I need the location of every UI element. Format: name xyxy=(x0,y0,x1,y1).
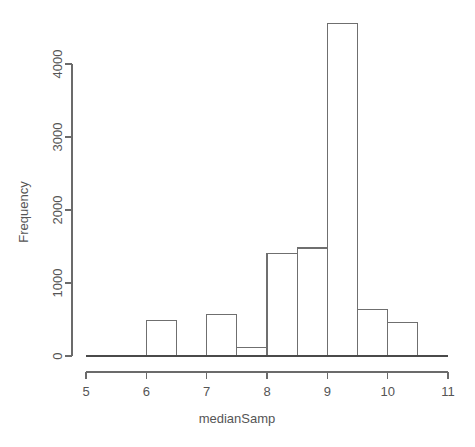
y-axis-title: Frequency xyxy=(16,181,31,243)
y-tick-label: 0 xyxy=(50,352,65,359)
x-tick-label: 6 xyxy=(143,384,150,399)
plot-canvas: 01000200030004000 567891011 medianSamp F… xyxy=(0,0,475,447)
histogram-bar xyxy=(267,254,297,356)
histogram-bar xyxy=(237,347,267,356)
y-axis-ticks: 01000200030004000 xyxy=(50,50,73,360)
histogram-bar xyxy=(297,248,327,356)
y-tick-label: 2000 xyxy=(50,196,65,225)
x-tick-label: 11 xyxy=(441,384,455,399)
histogram-bar xyxy=(207,314,237,356)
y-tick-label: 1000 xyxy=(50,269,65,298)
histogram-bar xyxy=(388,322,418,356)
y-tick-label: 3000 xyxy=(50,123,65,152)
x-tick-label: 5 xyxy=(82,384,89,399)
x-tick-label: 8 xyxy=(263,384,270,399)
histogram-bars xyxy=(146,24,418,356)
x-tick-label: 10 xyxy=(380,384,394,399)
histogram-bar xyxy=(146,320,176,356)
x-tick-label: 9 xyxy=(324,384,331,399)
x-axis-title: medianSamp xyxy=(199,411,276,426)
x-tick-label: 7 xyxy=(203,384,210,399)
y-tick-label: 4000 xyxy=(50,50,65,79)
histogram-bar xyxy=(358,309,388,356)
histogram-plot: 01000200030004000 567891011 medianSamp F… xyxy=(0,0,475,447)
x-axis-ticks: 567891011 xyxy=(82,372,454,399)
histogram-bar xyxy=(327,24,357,356)
